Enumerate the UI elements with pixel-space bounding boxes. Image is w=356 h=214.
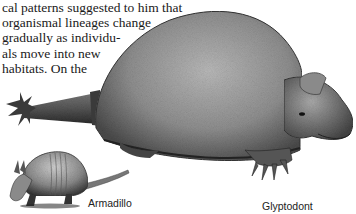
body-text-line: organismal lineages change — [2, 15, 151, 31]
body-text-line: cal patterns suggested to him that — [2, 0, 182, 16]
body-text-line: gradually as individu- — [2, 30, 120, 46]
glyptodont-head — [284, 73, 353, 140]
caption-armadillo: Armadillo — [88, 197, 132, 209]
caption-glyptodont: Glyptodont — [262, 200, 313, 212]
tail-club-spikes — [6, 92, 36, 126]
body-text-line: habitats. On the — [2, 61, 87, 77]
body-text-line: als move into new — [2, 46, 101, 62]
glyptodont-front-foot — [245, 148, 292, 180]
glyptodont-shell — [96, 11, 302, 160]
glyptodont-tail — [6, 90, 102, 126]
